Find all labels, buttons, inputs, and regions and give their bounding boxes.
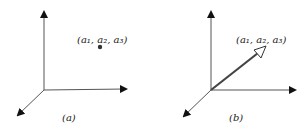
x-axis — [184, 90, 211, 116]
position-vector — [211, 53, 258, 90]
vector-label: (a₁, a₂, a₃) — [236, 34, 287, 45]
point-marker — [98, 45, 102, 49]
panel-a: (a₁, a₂, a₃) (a) — [18, 12, 128, 123]
panel-caption: (a) — [62, 112, 76, 123]
point-label: (a₁, a₂, a₃) — [77, 34, 128, 45]
diagram-canvas: (a₁, a₂, a₃) (a) (a₁, a₂, a₃) (b) — [0, 0, 307, 134]
panel-caption: (b) — [229, 112, 243, 123]
y-axis — [44, 89, 126, 90]
x-axis — [18, 90, 44, 115]
panel-b: (a₁, a₂, a₃) (b) — [184, 12, 295, 123]
hollow-arrowhead-icon — [254, 46, 266, 58]
